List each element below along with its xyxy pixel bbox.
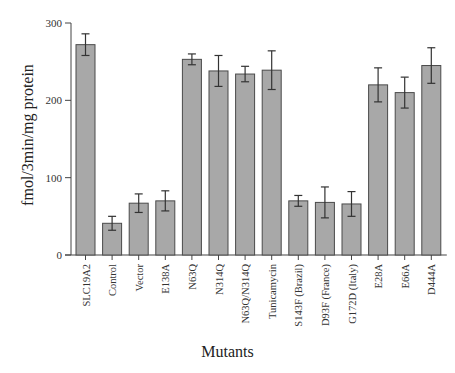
x-tick-label: N63Q/N314Q — [240, 264, 251, 324]
bar — [76, 45, 95, 255]
y-tick-label: 300 — [46, 17, 63, 29]
bar — [262, 70, 281, 255]
bar — [209, 71, 228, 255]
bar — [369, 85, 388, 255]
bar — [182, 59, 201, 255]
x-tick-label: D93F (France) — [320, 263, 332, 326]
x-tick-label: E66A — [400, 264, 411, 289]
bar-chart: 0100200300SLC19A2ControlVectorE138AN63QN… — [0, 0, 455, 373]
x-tick-label: Tunicamycin — [267, 263, 278, 319]
x-tick-label: Control — [107, 264, 118, 296]
x-tick-label: G172D (Italy) — [347, 264, 359, 324]
x-tick-label: D444A — [426, 264, 437, 295]
y-tick-label: 100 — [46, 172, 63, 184]
y-tick-label: 0 — [57, 249, 63, 261]
x-tick-label: N63Q — [187, 264, 198, 290]
x-tick-label: SLC19A2 — [81, 264, 92, 307]
x-axis-label: Mutants — [0, 343, 455, 361]
bar — [395, 93, 414, 255]
x-tick-label: E138A — [160, 264, 171, 294]
bar — [236, 74, 255, 255]
y-tick-label: 200 — [46, 94, 63, 106]
x-tick-label: N314Q — [214, 264, 225, 295]
x-tick-label: Vector — [134, 263, 145, 291]
x-tick-label: S143F (Brazil) — [293, 263, 305, 326]
plot-area: 0100200300SLC19A2ControlVectorE138AN63QN… — [0, 0, 455, 373]
y-axis-label: fmol/3min/mg protein — [19, 35, 37, 235]
bar — [289, 201, 308, 255]
x-tick-label: E28A — [373, 264, 384, 289]
bar — [422, 66, 441, 255]
